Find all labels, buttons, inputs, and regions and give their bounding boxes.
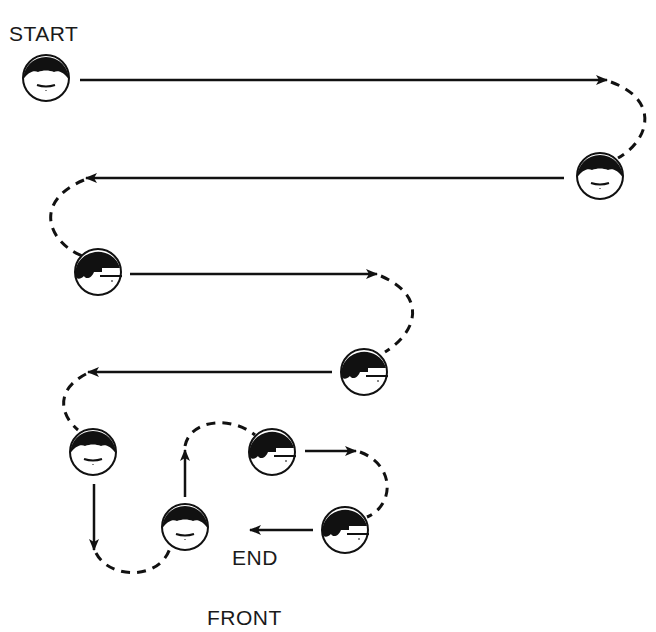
head-icon-position-7 (249, 429, 296, 475)
head-icon-position-1 (23, 55, 69, 101)
turn-2 (51, 180, 84, 256)
head-icon-position-8 (322, 507, 369, 553)
turn-3 (381, 276, 413, 352)
head-icon-position-5 (70, 429, 116, 475)
walking-path-diagram (0, 0, 656, 632)
end-label: END (232, 546, 278, 570)
front-label: FRONT (207, 606, 282, 630)
turn-1 (611, 82, 645, 158)
head-icon-position-3 (75, 249, 122, 295)
turn-5 (96, 548, 170, 573)
turn-4 (64, 374, 86, 430)
start-label: START (9, 22, 78, 46)
head-icon-position-2 (577, 153, 623, 199)
head-icon-position-4 (341, 349, 388, 395)
turn-6 (185, 423, 255, 446)
turn-7 (360, 452, 387, 517)
head-icon-position-6 (162, 504, 208, 550)
